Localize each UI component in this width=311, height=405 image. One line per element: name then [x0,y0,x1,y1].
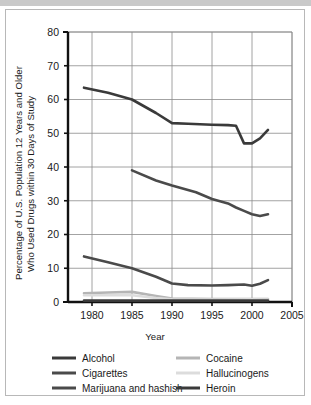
x-axis-title: Year [145,331,165,342]
axis-spines [63,32,292,307]
series-line-cigarettes [132,170,268,216]
y-tick-label: 20 [47,228,59,240]
series-line-marijuana-and-hashish [84,256,268,285]
y-tick-label: 70 [47,60,59,72]
y-tick-label: 60 [47,93,59,105]
x-tick-label: 2000 [240,309,264,321]
legend-label-hallucinogens: Hallucinogens [206,368,269,379]
y-tick-label: 50 [47,127,59,139]
top-gray-band [0,0,311,6]
x-tick-label: 1990 [160,309,184,321]
y-tick-label: 30 [47,195,59,207]
y-axis-title: Percentage of U.S. Population 12 Years a… [13,65,36,280]
x-tick-label: 1980 [80,309,104,321]
legend-label-cocaine: Cocaine [206,353,243,364]
x-tick-label: 1985 [120,309,144,321]
legend-label-marijuana-and-hashish: Marijuana and hashish [82,383,183,394]
y-tick-label: 40 [47,161,59,173]
series-line-alcohol [84,88,268,144]
data-series-layer [84,88,268,301]
legend-label-alcohol: Alcohol [82,353,115,364]
y-axis-title-line1: Percentage of U.S. Population 12 Years a… [13,65,24,280]
y-axis-title-line2: Who Used Drugs within 30 Days of Study [25,96,36,272]
x-axis-ticks: 198019851990199520002005 [80,302,304,321]
chart-legend: AlcoholCigarettesMarijuana and hashishCo… [52,353,269,394]
y-tick-label: 10 [47,262,59,274]
y-axis-ticks: 01020304050607080 [47,26,68,308]
drug-use-line-chart: Percentage of U.S. Population 12 Years a… [6,10,304,395]
legend-label-cigarettes: Cigarettes [82,368,128,379]
x-tick-label: 2005 [280,309,304,321]
x-tick-label: 1995 [200,309,224,321]
y-tick-label: 0 [53,296,59,308]
y-tick-label: 80 [47,26,59,38]
legend-label-heroin: Heroin [206,383,235,394]
chart-figure-frame: Percentage of U.S. Population 12 Years a… [5,9,305,396]
